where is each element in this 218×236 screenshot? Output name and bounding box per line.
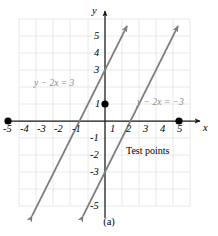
x-tick--4: -4 — [20, 124, 29, 135]
y-tick--5: -5 — [90, 201, 99, 212]
x-tick--5: -5 — [3, 124, 12, 135]
test-point-center — [101, 100, 108, 107]
graph-figure: y x -5 -4 -3 -2 -1 1 2 3 4 5 5 4 3 1 -1 … — [0, 0, 218, 236]
equation-label-left: y − 2x = 3 — [34, 79, 74, 89]
y-tick-3: 3 — [94, 65, 99, 76]
test-points-annotation: Test points — [126, 146, 169, 156]
axis-label-x: x — [203, 123, 208, 134]
axis-label-y: y — [92, 6, 97, 17]
x-tick--2: -2 — [54, 124, 63, 135]
x-tick--1: -1 — [72, 124, 81, 135]
y-tick-1: 1 — [95, 99, 100, 110]
y-tick--2: -2 — [90, 150, 99, 161]
x-tick-3: 3 — [143, 124, 148, 135]
y-tick-4: 4 — [94, 48, 99, 59]
figure-caption: (a) — [0, 216, 218, 227]
x-tick-1: 1 — [110, 124, 115, 135]
x-tick-5: 5 — [177, 124, 182, 135]
y-tick--1: -1 — [90, 133, 99, 144]
y-tick--3: -3 — [90, 167, 99, 178]
coordinate-plane — [0, 0, 218, 236]
x-tick--3: -3 — [37, 124, 46, 135]
equation-label-right: y − 2x = −3 — [137, 98, 184, 108]
y-tick-5: 5 — [94, 31, 99, 42]
x-tick-2: 2 — [126, 124, 131, 135]
x-tick-4: 4 — [160, 124, 165, 135]
